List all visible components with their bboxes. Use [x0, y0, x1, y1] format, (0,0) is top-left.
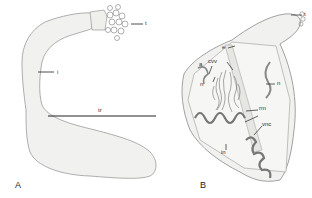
- label-b-n2: n: [277, 80, 280, 86]
- label-b-e: e: [222, 44, 225, 50]
- label-a-t: t: [145, 20, 147, 26]
- label-b-a: a: [199, 61, 202, 67]
- label-b-cvv: cvv: [208, 58, 217, 64]
- figure-canvas: [0, 0, 312, 198]
- panel-b-specimen: [182, 12, 305, 181]
- label-b-rm: rm: [259, 105, 266, 111]
- panel-a-specimen: [22, 5, 156, 179]
- neck-segment: [90, 10, 107, 30]
- label-b-in: in: [221, 149, 226, 155]
- label-b-n1: n: [200, 81, 203, 87]
- panel-label-b: B: [200, 181, 206, 190]
- label-b-vnc: vnc: [262, 121, 271, 127]
- label-b-t: t: [304, 11, 306, 17]
- label-a-i: i: [57, 69, 58, 75]
- panel-label-a: A: [15, 181, 21, 190]
- tentacle-crown: [106, 5, 129, 41]
- label-a-tr: tr: [98, 107, 102, 113]
- trunk-outline: [22, 13, 156, 178]
